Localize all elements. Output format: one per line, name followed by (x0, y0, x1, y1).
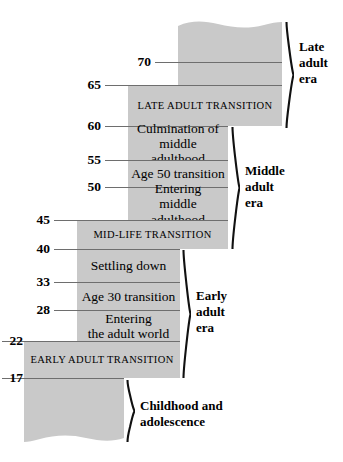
band-settling-down: Settling down (77, 249, 180, 282)
band-settling-down-label: Settling down (77, 258, 180, 273)
band-mid-life-transition-label: Mid-life transition (77, 229, 228, 241)
band-entering-the-adult-world-label: Entering the adult world (77, 311, 180, 341)
age-45: 45 (25, 213, 50, 227)
era-caption-childhood-era: Childhood and adolescence (140, 398, 223, 430)
rule-age-70 (178, 62, 282, 63)
brace-early-adult-era (182, 250, 191, 378)
band-mid-life-transition: Mid-life transition (77, 220, 228, 249)
band-entering-middle-adulthood: Entering middle adulthood (128, 187, 228, 220)
age-17: 17 (0, 371, 23, 385)
brace-childhood-era (126, 380, 135, 442)
age-22: 22 (0, 334, 23, 348)
age-40: 40 (25, 242, 50, 256)
band-late-adulthood (178, 31, 282, 85)
tick-age-33 (54, 282, 78, 283)
band-late-adult-transition-label: Late adult transition (128, 100, 282, 112)
band-late-adult-transition: Late adult transition (128, 85, 282, 126)
band-age-50-transition-label: Age 50 transition (128, 166, 228, 181)
band-early-adult-transition-label: Early adult transition (24, 354, 180, 366)
band-entering-the-adult-world: Entering the adult world (77, 310, 180, 341)
era-caption-late-adult-era: Late adult era (299, 39, 328, 87)
age-60: 60 (76, 119, 101, 133)
tick-age-50 (105, 187, 129, 188)
band-childhood-and-adolescence (24, 378, 124, 433)
band-age-30-transition: Age 30 transition (77, 282, 180, 310)
levinson-seasons-of-life-diagram: 70 Late adult transition 65 Culmination … (0, 0, 343, 462)
tick-age-70 (155, 62, 179, 63)
tick-age-55 (105, 160, 129, 161)
era-caption-middle-adult-era: Middle adult era (245, 163, 285, 211)
tick-age-40 (54, 249, 78, 250)
age-50: 50 (76, 180, 101, 194)
tick-age-65 (105, 85, 129, 86)
band-age-30-transition-label: Age 30 transition (77, 289, 180, 304)
age-28: 28 (25, 303, 50, 317)
age-55: 55 (76, 153, 101, 167)
childhood-wavy-bottom-edge (24, 432, 124, 444)
tick-age-28 (54, 310, 78, 311)
age-65: 65 (76, 78, 101, 92)
band-early-adult-transition: Early adult transition (24, 341, 180, 378)
age-33: 33 (25, 275, 50, 289)
band-culmination-middle-adulthood: Culmination of middle adulthood (128, 126, 228, 160)
brace-middle-adult-era (231, 127, 240, 249)
tick-age-45 (54, 220, 78, 221)
era-caption-early-adult-era: Early adult era (196, 288, 227, 336)
tick-age-60 (105, 126, 129, 127)
brace-late-adult-era (285, 22, 294, 128)
age-70: 70 (126, 55, 151, 69)
